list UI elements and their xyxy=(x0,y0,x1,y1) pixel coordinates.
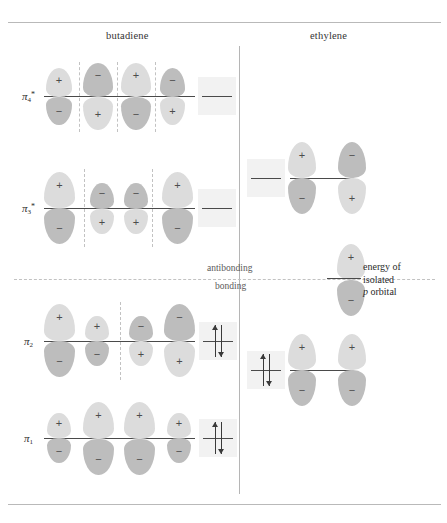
electron-arrow-down xyxy=(221,422,222,454)
lobe-sign: − xyxy=(83,70,113,81)
p-orbital: + − xyxy=(121,62,151,131)
p-orbital: + − xyxy=(167,411,191,465)
isolated-p-orbital-note: energy of isolated p orbital xyxy=(363,261,401,299)
mo-label-pi3-star: π3* xyxy=(22,202,35,216)
isolated-p-orbital: + − xyxy=(337,243,365,317)
lobe-sign: − xyxy=(288,193,316,204)
lobe-sign: − xyxy=(337,295,365,306)
lobe-sign: − xyxy=(83,454,114,465)
lobe-sign: − xyxy=(85,349,109,360)
energy-level-line xyxy=(203,438,233,439)
node-plane xyxy=(152,169,153,247)
lobe-sign: + xyxy=(288,150,316,161)
electron-arrow-up xyxy=(215,325,216,357)
p-orbital: + − xyxy=(44,303,75,378)
lobe-sign: − xyxy=(164,312,195,323)
lobe-sign: + xyxy=(83,109,113,120)
p-orbital: − + xyxy=(160,66,185,127)
p-orbital: + − xyxy=(83,401,114,476)
lobe-sign: − xyxy=(167,446,191,457)
isolated-note-line2: isolated xyxy=(363,274,401,287)
energy-level-line xyxy=(251,370,281,371)
energy-level-pi1 xyxy=(199,419,237,457)
p-orbital: − + xyxy=(129,314,153,368)
energy-level-pi3-star xyxy=(198,189,236,227)
mo-label-pi1-sub: 1 xyxy=(30,438,34,446)
energy-level-ethylene-pi-star xyxy=(247,159,285,197)
lobe-sign: − xyxy=(338,150,366,161)
antibonding-label: antibonding xyxy=(207,263,252,273)
lobe-sign: + xyxy=(164,356,195,367)
orbital-word: orbital xyxy=(368,286,397,297)
lobe-sign: − xyxy=(162,223,193,234)
lobe-sign: + xyxy=(337,252,365,263)
node-plane xyxy=(120,302,121,380)
lobe-sign: − xyxy=(46,106,72,117)
node-plane xyxy=(79,62,80,132)
electron-arrow-down xyxy=(269,354,270,386)
lobe-sign: − xyxy=(338,385,366,396)
lobe-sign: − xyxy=(90,188,114,199)
lobe-sign: + xyxy=(338,342,366,353)
electron-arrow-up xyxy=(215,422,216,454)
figure-bottom-rule xyxy=(8,504,441,505)
energy-level-line xyxy=(202,208,232,209)
lobe-sign: + xyxy=(85,321,109,332)
lobe-sign: + xyxy=(124,217,148,228)
node-plane xyxy=(117,62,118,132)
energy-level-pi2 xyxy=(199,322,237,360)
column-heading-butadiene: butadiene xyxy=(106,30,149,41)
lobe-sign: − xyxy=(288,385,316,396)
p-orbital: − + xyxy=(164,303,195,378)
p-orbital: + − xyxy=(44,171,75,245)
lobe-sign: + xyxy=(46,75,72,86)
lobe-sign: + xyxy=(44,312,75,323)
lobe-sign: + xyxy=(160,106,185,117)
lobe-sign: + xyxy=(47,418,71,429)
mo-label-pi3-star-mark: * xyxy=(31,202,35,211)
node-plane xyxy=(84,169,85,247)
lobe-sign: − xyxy=(44,223,75,234)
bonding-label: bonding xyxy=(215,281,246,291)
p-orbital: + − xyxy=(85,314,109,368)
p-orbital: + − xyxy=(288,333,316,407)
p-orbital: + − xyxy=(47,411,71,465)
node-plane xyxy=(155,62,156,132)
energy-level-line xyxy=(203,341,233,342)
isolated-note-line1: energy of xyxy=(363,261,401,274)
mo-label-pi2: π2 xyxy=(24,335,33,349)
energy-level-line xyxy=(202,96,232,97)
lobe-sign: − xyxy=(124,188,148,199)
mo-energy-diagram: butadiene ethylene π4* + − − + + − xyxy=(0,0,447,523)
lobe-sign: + xyxy=(338,193,366,204)
lobe-sign: + xyxy=(90,217,114,228)
electron-arrow-down xyxy=(221,325,222,357)
lobe-sign: + xyxy=(129,349,153,360)
mo-label-pi2-sub: 2 xyxy=(30,341,34,349)
p-orbital: + − xyxy=(288,141,316,215)
figure-top-rule xyxy=(8,22,441,23)
p-orbital: + − xyxy=(338,333,366,407)
lobe-sign: + xyxy=(121,70,151,81)
lobe-sign: + xyxy=(44,180,75,191)
energy-level-line xyxy=(251,178,281,179)
p-orbital: − + xyxy=(338,141,366,215)
lobe-sign: − xyxy=(121,109,151,120)
mo-label-pi4-star: π4* xyxy=(22,90,35,104)
lobe-sign: + xyxy=(83,410,114,421)
p-orbital: + − xyxy=(46,66,72,127)
lobe-sign: − xyxy=(160,75,185,86)
p-orbital: + − xyxy=(162,171,193,245)
energy-level-pi4-star xyxy=(198,77,236,115)
lobe-sign: − xyxy=(44,356,75,367)
electron-arrow-up xyxy=(263,354,264,386)
isolated-note-line3: p orbital xyxy=(363,286,401,299)
lobe-sign: − xyxy=(129,321,153,332)
mo-label-pi1: π1 xyxy=(24,432,33,446)
p-orbital: + − xyxy=(124,401,155,476)
lobe-sign: + xyxy=(167,418,191,429)
mo-label-pi4-star-mark: * xyxy=(31,90,35,99)
column-heading-ethylene: ethylene xyxy=(310,30,347,41)
energy-level-ethylene-pi xyxy=(247,351,285,389)
lobe-sign: − xyxy=(124,454,155,465)
